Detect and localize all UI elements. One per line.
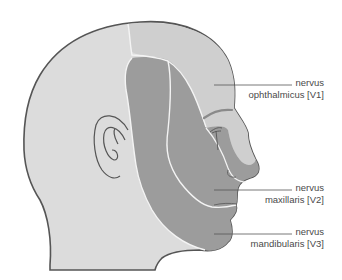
label-nervus-maxillaris: nervus maxillaris [V2]: [265, 182, 324, 206]
label-v1-line1: nervus: [248, 77, 324, 89]
label-v2-line1: nervus: [265, 182, 324, 194]
label-v3-line1: nervus: [251, 226, 324, 238]
trigeminal-innervation-diagram: nervus ophthalmicus [V1] nervus maxillar…: [0, 0, 342, 280]
label-nervus-ophthalmicus: nervus ophthalmicus [V1]: [248, 77, 324, 101]
label-nervus-mandibularis: nervus mandibularis [V3]: [251, 226, 324, 250]
label-v1-line2: ophthalmicus [V1]: [248, 89, 324, 101]
label-v2-line2: maxillaris [V2]: [265, 194, 324, 206]
label-v3-line2: mandibularis [V3]: [251, 238, 324, 250]
